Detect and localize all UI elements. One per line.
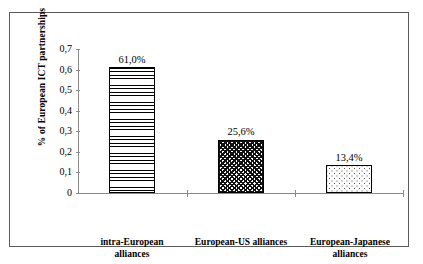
y-tick-label: 0,3 — [12, 126, 72, 136]
x-category-line: alliances — [296, 249, 404, 261]
plot-area: 0 0,1 0,2 0,3 0,4 0,5 0,6 0,7 61,0% 25,6… — [78, 49, 404, 193]
bar-european-japanese — [326, 165, 372, 193]
y-tick-label: 0,1 — [12, 167, 72, 177]
data-label: 61,0% — [102, 54, 162, 65]
y-tick — [76, 152, 80, 153]
x-tick — [295, 190, 296, 197]
y-tick — [76, 131, 80, 132]
y-tick-label: 0,2 — [12, 147, 72, 157]
y-tick-label: 0,6 — [12, 65, 72, 75]
x-category-label-2: European-Japanese alliances — [296, 237, 404, 260]
y-tick — [76, 90, 80, 91]
y-tick-label: 0 — [12, 188, 72, 198]
x-category-line: European-US alliances — [188, 237, 294, 249]
y-axis-line — [78, 49, 79, 193]
y-tick — [76, 111, 80, 112]
bar-european-us — [218, 140, 264, 193]
x-tick — [187, 190, 188, 197]
bar-intra-european — [109, 67, 155, 193]
y-tick — [76, 193, 80, 194]
x-category-line: alliances — [84, 249, 180, 261]
x-category-line: intra-European — [84, 237, 180, 249]
x-axis-line — [78, 193, 404, 194]
y-tick — [76, 49, 80, 50]
y-tick-label: 0,4 — [12, 106, 72, 116]
x-category-line: European-Japanese — [296, 237, 404, 249]
chart-frame: % of European ICT partnerships 0 0,1 0,2… — [9, 12, 409, 247]
data-label: 13,4% — [319, 152, 379, 163]
y-tick-label: 0,7 — [12, 44, 72, 54]
x-tick — [403, 190, 404, 197]
data-label: 25,6% — [211, 126, 271, 137]
x-category-label-0: intra-European alliances — [84, 237, 180, 260]
x-category-label-1: European-US alliances — [188, 237, 294, 249]
y-tick — [76, 172, 80, 173]
y-tick-label: 0,5 — [12, 85, 72, 95]
y-tick — [76, 70, 80, 71]
